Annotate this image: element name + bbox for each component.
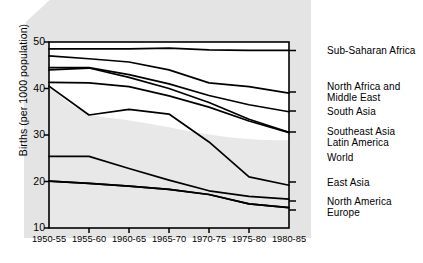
- legend: Sub-Saharan Africa North Africa and Midd…: [0, 0, 423, 263]
- legend-label-south-asia: South Asia: [327, 106, 376, 117]
- legend-label-east-asia: East Asia: [327, 177, 370, 188]
- legend-label-southeast-asia-latin-america: Southeast Asia Latin America: [327, 126, 395, 148]
- legend-label-sub-saharan-africa: Sub-Saharan Africa: [327, 45, 416, 56]
- legend-label-world: World: [327, 152, 353, 163]
- legend-label-north-africa-middle-east: North Africa and Middle East: [327, 81, 400, 103]
- chart-figure: Births (per 1000 population) 50 40 30 20…: [0, 0, 423, 263]
- legend-label-north-america-europe: North America Europe: [327, 196, 392, 218]
